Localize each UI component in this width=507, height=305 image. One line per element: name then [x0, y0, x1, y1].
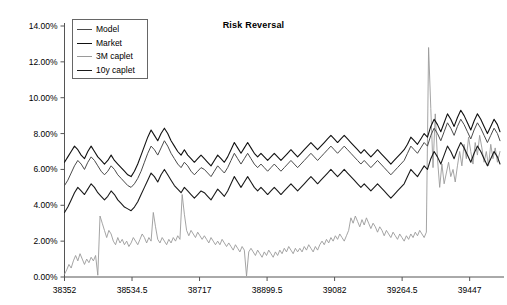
legend-item-model[interactable]: Model [77, 23, 143, 37]
legend-item-market[interactable]: Market [77, 37, 143, 51]
chart-figure: Risk Reversal 0.00%2.00%4.00%6.00%8.00%1… [0, 0, 507, 305]
y-tick-label: 10.00% [29, 93, 58, 103]
legend-swatch-market [77, 43, 92, 44]
legend-swatch-model [77, 29, 92, 30]
y-tick-label: 8.00% [33, 129, 58, 139]
x-tick-label: 38717 [188, 285, 212, 295]
series-line-market [65, 110, 501, 176]
y-tick-label: 2.00% [33, 236, 58, 246]
legend-swatch-10y-caplet [77, 70, 92, 71]
y-tick-label: 12.00% [29, 57, 58, 67]
x-tick-label: 38534.5 [117, 285, 148, 295]
y-tick-label: 4.00% [33, 200, 58, 210]
legend-label-3m-caplet: 3M caplet [96, 50, 133, 64]
y-tick-label: 0.00% [33, 272, 58, 282]
series-line-3m-caplet [65, 48, 501, 277]
legend-label-model: Model [96, 23, 119, 37]
y-tick-label: 14.00% [29, 21, 58, 31]
legend-label-market: Market [96, 37, 122, 51]
legend-item-3m-caplet[interactable]: 3M caplet [77, 50, 143, 64]
x-tick-label: 39082 [323, 285, 347, 295]
legend-item-10y-caplet[interactable]: 10y caplet [77, 64, 143, 78]
x-tick-label: 38899.5 [252, 285, 283, 295]
x-tick-label: 39447 [458, 285, 482, 295]
x-tick-label: 38352 [53, 285, 77, 295]
series-line-10y-caplet [65, 143, 501, 213]
y-tick-label: 6.00% [33, 164, 58, 174]
legend-swatch-3m-caplet [77, 56, 92, 57]
chart-legend: Model Market 3M caplet 10y caplet [72, 19, 148, 79]
legend-label-10y-caplet: 10y caplet [96, 64, 135, 78]
x-tick-label: 39264.5 [387, 285, 418, 295]
